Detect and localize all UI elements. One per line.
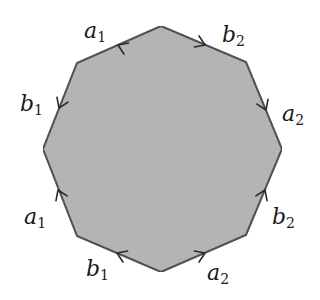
octagon-shape (43, 26, 282, 272)
edge-label-a2-bottom: a2 (207, 260, 229, 287)
edge-label-b1-bottom: b1 (86, 256, 109, 283)
edge-label-b2-top: b2 (222, 22, 245, 49)
edge-label-b2-right: b2 (272, 204, 295, 231)
edge-label-a2-right: a2 (282, 101, 304, 128)
edge-label-a1-left: a1 (24, 204, 46, 231)
edge-label-b1-left: b1 (20, 91, 43, 118)
octagon-diagram: a1 b2 a2 b2 a2 b1 a1 b1 (0, 0, 320, 300)
edge-label-a1-top: a1 (84, 18, 106, 45)
